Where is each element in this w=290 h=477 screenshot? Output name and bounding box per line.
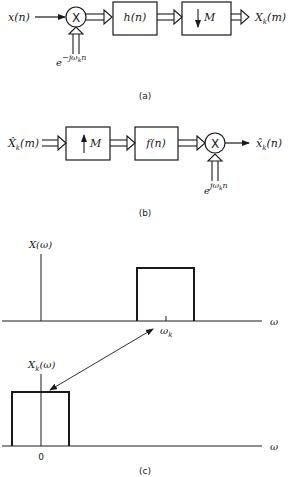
modulator-double-arrow-a xyxy=(69,27,83,54)
filter-label-hn: h(n) xyxy=(124,11,147,24)
input-label-xn: x(n) xyxy=(8,11,30,24)
caption-b: (b) xyxy=(139,208,152,218)
spectrum-plot-bottom: Xk(ω) ω 0 xyxy=(2,359,278,462)
filterbank-diagram: x(n) X e−jωkn h(n) M xyxy=(0,0,290,477)
multiply-symbol: X xyxy=(72,11,80,25)
modulator-label-a: e−jωkn xyxy=(56,53,86,68)
origin-label: 0 xyxy=(38,452,44,462)
panel-a: x(n) X e−jωkn h(n) M xyxy=(8,2,286,101)
omega-k-label: ωk xyxy=(160,325,172,339)
panel-b: X̂k(m) M f(n) X x̂k(n) xyxy=(7,127,282,218)
spectrum-plot-top: X(ω) ω ωk xyxy=(2,239,278,339)
interpolator-label: M xyxy=(89,137,102,150)
xlabel-omega-bottom: ω xyxy=(270,441,278,452)
frequency-shift-arrow xyxy=(50,329,153,390)
double-arrow-b3 xyxy=(178,136,205,150)
modulator-label-b: ejωkn xyxy=(204,181,228,196)
modulator-double-arrow-b xyxy=(208,154,222,181)
panel-c: X(ω) ω ωk Xk(ω) ω 0 (c) xyxy=(2,239,278,476)
xlabel-omega-top: ω xyxy=(270,316,278,327)
interpolator-box xyxy=(66,127,110,160)
multiplier-a: X xyxy=(66,7,86,27)
input-label-Xhat-k-m: X̂k(m) xyxy=(7,137,39,152)
decimator-label: M xyxy=(203,11,216,24)
double-arrow-a3 xyxy=(231,10,249,24)
output-label-xhat-k-n: x̂k(n) xyxy=(256,137,282,152)
double-arrow-a2 xyxy=(157,10,182,24)
caption-a: (a) xyxy=(139,91,152,101)
multiply-symbol: X xyxy=(211,137,219,151)
bandpass-rect xyxy=(137,268,194,321)
ylabel-Xk-omega: Xk(ω) xyxy=(27,359,55,373)
double-arrow-a1 xyxy=(86,10,112,24)
multiplier-b: X xyxy=(205,133,225,153)
ylabel-X-omega: X(ω) xyxy=(28,239,52,250)
double-arrow-b2 xyxy=(110,136,135,150)
double-arrow-b1 xyxy=(42,136,66,150)
filter-label-fn: f(n) xyxy=(145,137,166,150)
caption-c: (c) xyxy=(139,466,151,476)
output-label-Xk-m: Xk(m) xyxy=(254,11,286,26)
